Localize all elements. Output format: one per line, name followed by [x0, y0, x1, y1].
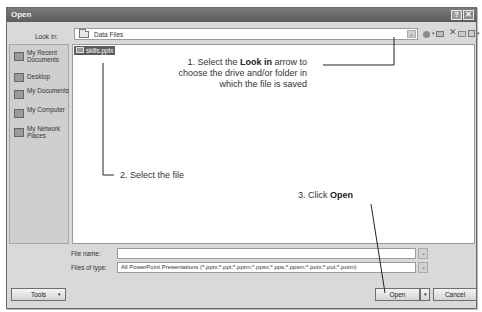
place-label: My Recent Documents — [27, 50, 69, 63]
close-button[interactable]: ✕ — [463, 10, 474, 20]
files-of-type-dropdown[interactable]: All PowerPoint Presentations (*.pptx;*.p… — [117, 262, 416, 273]
callout-step-3: 3. Click Open — [298, 190, 353, 201]
my-computer-icon — [14, 109, 24, 118]
place-label: Desktop — [27, 74, 50, 81]
look-in-value: Data Files — [94, 31, 123, 38]
window-title: Open — [11, 10, 31, 19]
title-bar: Open ? ✕ — [7, 8, 476, 22]
delete-icon[interactable]: ✕ — [449, 28, 457, 36]
file-name-label: File name: — [71, 250, 100, 257]
tools-dropdown-icon: ▾ — [58, 289, 61, 300]
views-dropdown-icon[interactable]: ▾ — [477, 29, 480, 37]
open-dropdown-button[interactable]: ▾ — [420, 288, 430, 301]
look-in-dropdown[interactable]: Data Files ⌄ — [74, 28, 418, 40]
file-name-dropdown-arrow[interactable]: ⌄ — [418, 248, 428, 259]
places-bar: My Recent Documents Desktop My Documents… — [9, 44, 69, 244]
recent-documents-icon — [14, 52, 24, 61]
file-name-input[interactable] — [117, 248, 416, 259]
files-of-type-dropdown-arrow[interactable]: ⌄ — [418, 262, 428, 273]
folder-icon — [79, 31, 89, 38]
place-label: My Network Places — [27, 126, 69, 139]
open-button[interactable]: Open — [375, 288, 420, 301]
look-in-label: Look in: — [35, 33, 58, 40]
file-name: skills.pptx — [86, 47, 113, 54]
pptx-file-icon — [76, 47, 84, 53]
place-my-network-places[interactable]: My Network Places — [13, 125, 69, 145]
place-my-recent-documents[interactable]: My Recent Documents — [13, 49, 69, 69]
look-in-arrow-button[interactable]: ⌄ — [407, 30, 416, 38]
files-of-type-label: Files of type: — [71, 264, 107, 271]
tools-label: Tools — [31, 291, 46, 298]
dialog-toolbar: ▾ ✕ ▾ — [423, 28, 475, 40]
callout-step-2: 2. Select the file — [120, 170, 184, 181]
help-button[interactable]: ? — [451, 10, 462, 20]
up-one-level-icon[interactable] — [436, 31, 444, 37]
tools-button[interactable]: Tools ▾ — [11, 288, 66, 301]
desktop-icon — [14, 73, 24, 82]
callout-bold-text: Open — [330, 190, 353, 200]
callout-text: 1. Select the — [187, 57, 240, 67]
back-dropdown-icon[interactable]: ▾ — [432, 29, 435, 37]
place-my-computer[interactable]: My Computer — [13, 106, 69, 126]
views-icon[interactable] — [468, 30, 475, 37]
cancel-button[interactable]: Cancel — [433, 288, 477, 301]
place-label: My Documents — [27, 88, 69, 95]
open-dialog: Open ? ✕ Look in: Data Files ⌄ ▾ ✕ ▾ My … — [6, 7, 477, 309]
callout-bold-text: Look in — [240, 57, 272, 67]
place-my-documents[interactable]: My Documents — [13, 87, 69, 107]
file-item[interactable]: skills.pptx — [74, 46, 115, 55]
network-places-icon — [14, 128, 24, 137]
back-icon[interactable] — [423, 31, 430, 38]
new-folder-icon[interactable] — [458, 31, 466, 37]
place-label: My Computer — [27, 107, 65, 114]
callout-step-1: 1. Select the Look in arrow to choose th… — [167, 57, 307, 90]
my-documents-icon — [14, 90, 24, 99]
callout-text: 3. Click — [298, 190, 330, 200]
